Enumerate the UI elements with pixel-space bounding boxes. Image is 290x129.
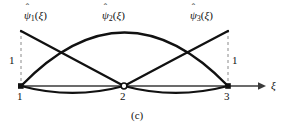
node-marker-3	[225, 83, 231, 89]
node-label-1: 1	[17, 91, 23, 102]
node-marker-2	[121, 83, 127, 89]
curve-label-psi-3: ˆψ3(ξ)	[190, 10, 213, 23]
node-marker-1	[18, 83, 24, 89]
figure-caption: (c)	[131, 110, 143, 121]
node-label-2: 2	[120, 91, 126, 102]
value-label-left: 1	[9, 55, 15, 66]
curve-label-psi-1: ˆψ1(ξ)	[24, 10, 47, 23]
hat-accent-icon: ˆ	[26, 3, 29, 13]
curve-label-psi-2: ˆψ2(ξ)	[102, 10, 125, 23]
quadratic-shape-functions-figure: ˆψ1(ξ) ˆψ2(ξ) ˆψ3(ξ) 1 1 1 2 3 ξ (c)	[0, 0, 290, 129]
xi-axis-label: ξ	[271, 80, 276, 91]
value-label-right: 1	[232, 55, 238, 66]
hat-accent-icon: ˆ	[104, 3, 107, 13]
node-label-3: 3	[224, 91, 230, 102]
hat-accent-icon: ˆ	[192, 3, 195, 13]
xi-axis-arrowhead	[258, 82, 266, 90]
curve-psi-2	[21, 33, 228, 87]
